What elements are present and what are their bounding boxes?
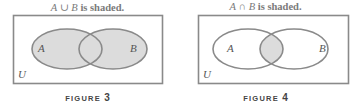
set-b-label: B <box>319 42 326 54</box>
caption-word: FIGURE <box>65 94 101 103</box>
universe-label: U <box>18 68 27 80</box>
venn-diagram-union: A B U <box>0 0 175 103</box>
figure-4-caption: FIGURE 4 <box>178 92 353 103</box>
caption-word: FIGURE <box>243 94 279 103</box>
set-b-label: B <box>130 42 137 54</box>
set-a-label: A <box>226 42 234 54</box>
figure-3-caption: FIGURE 3 <box>0 92 175 103</box>
figure-4-intersection: A ∩ B is shaded. A B U FIGURE 4 <box>178 0 353 103</box>
set-a-label: A <box>37 42 45 54</box>
universe-label: U <box>203 68 212 80</box>
caption-number: 4 <box>282 92 288 103</box>
caption-number: 3 <box>104 92 110 103</box>
figure-3-union: A ∪ B is shaded. A B U FIGURE 3 <box>0 0 175 103</box>
venn-diagram-intersection: A B U <box>178 0 353 103</box>
